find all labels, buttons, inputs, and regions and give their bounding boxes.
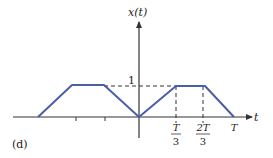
level-one-label: 1 [128, 74, 135, 87]
signal-diagram: x(t) t 1 T 3 2T 3 T (d) [0, 0, 273, 158]
t-axis-label: t [254, 111, 259, 124]
y-axis-label: x(t) [128, 6, 147, 19]
tick-label-T3-den: 3 [173, 136, 179, 147]
signal-waveform [38, 85, 234, 117]
tick-label-T3-num: T [173, 122, 181, 133]
tick-label-2T3-num: 2T [195, 122, 210, 133]
tick-label-2T3-den: 3 [200, 136, 206, 147]
tick-label-T: T [231, 122, 239, 133]
panel-label: (d) [12, 138, 28, 151]
